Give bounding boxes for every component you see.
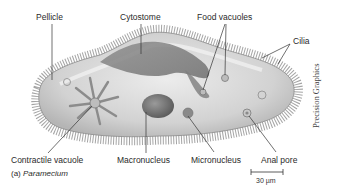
food-vacuole [222, 75, 229, 82]
scale-bar-label: 30 µm [256, 177, 276, 184]
label-anal-pore: Anal pore [261, 155, 297, 165]
macronucleus [142, 94, 174, 118]
figure-caption: (a) Paramecium [11, 169, 68, 178]
caption-organism: Paramecium [23, 169, 68, 178]
label-micronucleus: Micronucleus [191, 155, 241, 165]
scale-bar [251, 169, 283, 175]
label-contractile-vacuole: Contractile vacuole [11, 155, 83, 165]
label-food-vacuoles: Food vacuoles [197, 12, 252, 22]
caption-prefix: (a) [11, 169, 21, 178]
label-pellicle: Pellicle [36, 12, 63, 22]
paramecium-illustration [0, 0, 339, 196]
label-cilia: Cilia [293, 36, 310, 46]
image-credit: Precision Graphics [311, 64, 321, 128]
label-cytostome: Cytostome [120, 12, 161, 22]
label-macronucleus: Macronucleus [117, 155, 170, 165]
